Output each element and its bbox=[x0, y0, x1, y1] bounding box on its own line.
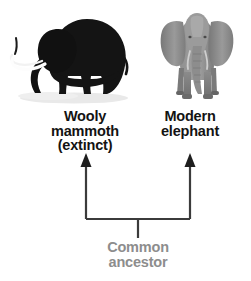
elephant-ear-right bbox=[208, 21, 233, 66]
ancestor-label-line-1: Common bbox=[78, 240, 198, 255]
mammoth-label-line-1: Wooly bbox=[20, 109, 150, 124]
elephant-ear-left bbox=[161, 21, 186, 66]
wooly-mammoth-silhouette bbox=[8, 8, 130, 104]
modern-elephant-photo bbox=[157, 6, 237, 104]
mammoth-label-line-2: mammoth bbox=[20, 124, 150, 139]
elephant-eye-left bbox=[188, 36, 191, 39]
elephant-label-line-1: Modern bbox=[142, 109, 238, 124]
elephant-label-line-2: elephant bbox=[142, 124, 238, 139]
elephant-leg-rear-right bbox=[211, 68, 217, 94]
elephant-foot-4 bbox=[211, 91, 219, 95]
mammoth-trunk-tip bbox=[15, 38, 17, 54]
elephant-foot-3 bbox=[176, 91, 184, 95]
elephant-foot-2 bbox=[203, 94, 213, 99]
elephant-eye-right bbox=[203, 36, 206, 39]
elephant-label: Modern elephant bbox=[142, 109, 238, 138]
arrow-up-to-elephant bbox=[185, 153, 196, 167]
mammoth-label: Wooly mammoth (extinct) bbox=[20, 109, 150, 153]
elephant-leg-rear-left bbox=[177, 68, 184, 94]
evolution-diagram: Wooly mammoth (extinct) Modern elephant … bbox=[0, 0, 251, 281]
arrow-up-to-mammoth bbox=[81, 153, 92, 167]
mammoth-label-line-3: (extinct) bbox=[20, 138, 150, 153]
ancestor-label-line-2: ancestor bbox=[78, 255, 198, 270]
mammoth-tusk-far bbox=[11, 55, 42, 65]
common-ancestor-bracket bbox=[70, 152, 206, 244]
elephant-foot-1 bbox=[182, 94, 192, 99]
common-ancestor-label: Common ancestor bbox=[78, 240, 198, 269]
elephant-forehead-highlight bbox=[191, 16, 204, 37]
